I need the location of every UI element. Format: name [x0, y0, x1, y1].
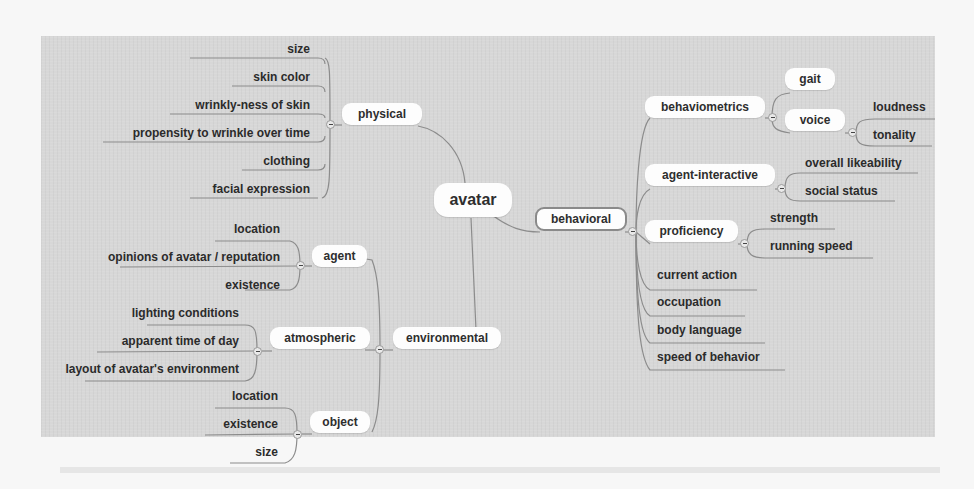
leaf-skin-color[interactable]: skin color: [253, 70, 310, 85]
leaf-opinions-of-avatar[interactable]: opinions of avatar / reputation: [108, 250, 280, 265]
collapse-toggle-proficiency[interactable]: [740, 239, 749, 248]
leaf-propensity-to-wrinkle[interactable]: propensity to wrinkle over time: [133, 126, 310, 141]
node-environmental[interactable]: environmental: [393, 327, 501, 349]
node-atmospheric[interactable]: atmospheric: [270, 327, 370, 349]
leaf-object-location[interactable]: location: [232, 389, 278, 404]
leaf-body-language[interactable]: body language: [657, 323, 742, 338]
leaf-apparent-time-of-day[interactable]: apparent time of day: [122, 334, 239, 349]
node-behaviometrics[interactable]: behaviometrics: [645, 96, 765, 118]
node-agent-interactive[interactable]: agent-interactive: [645, 164, 775, 186]
collapse-toggle-object[interactable]: [293, 430, 302, 439]
leaf-clothing[interactable]: clothing: [263, 154, 310, 169]
node-proficiency[interactable]: proficiency: [645, 220, 738, 242]
node-gait[interactable]: gait: [785, 68, 835, 90]
node-agent[interactable]: agent: [312, 245, 367, 267]
collapse-toggle-behavioral[interactable]: [628, 227, 637, 236]
leaf-running-speed[interactable]: running speed: [770, 239, 853, 254]
leaf-occupation[interactable]: occupation: [657, 295, 721, 310]
leaf-loudness[interactable]: loudness: [873, 100, 926, 115]
leaf-facial-expression[interactable]: facial expression: [213, 182, 310, 197]
node-object[interactable]: object: [310, 411, 370, 433]
node-behavioral[interactable]: behavioral: [535, 207, 627, 231]
collapse-toggle-behaviometrics[interactable]: [768, 113, 777, 122]
collapse-toggle-agent[interactable]: [296, 261, 305, 270]
leaf-object-size[interactable]: size: [255, 445, 278, 460]
leaf-speed-of-behavior[interactable]: speed of behavior: [657, 350, 760, 365]
collapse-toggle-atmospheric[interactable]: [253, 347, 262, 356]
collapse-toggle-agent-interactive[interactable]: [777, 184, 786, 193]
leaf-current-action[interactable]: current action: [657, 268, 737, 283]
root-node-avatar[interactable]: avatar: [434, 183, 512, 217]
leaf-layout-of-environment[interactable]: layout of avatar's environment: [65, 362, 239, 377]
node-voice[interactable]: voice: [785, 109, 845, 131]
leaf-lighting-conditions[interactable]: lighting conditions: [132, 306, 239, 321]
leaf-wrinkly-ness-of-skin[interactable]: wrinkly-ness of skin: [195, 98, 310, 113]
node-physical[interactable]: physical: [342, 103, 422, 125]
collapse-toggle-voice[interactable]: [848, 128, 857, 137]
leaf-agent-existence[interactable]: existence: [225, 278, 280, 293]
leaf-agent-location[interactable]: location: [234, 222, 280, 237]
leaf-overall-likeability[interactable]: overall likeability: [805, 156, 902, 171]
leaf-size[interactable]: size: [287, 42, 310, 57]
leaf-social-status[interactable]: social status: [805, 184, 878, 199]
leaf-tonality[interactable]: tonality: [873, 128, 916, 143]
leaf-strength[interactable]: strength: [770, 211, 818, 226]
collapse-toggle-physical[interactable]: [326, 120, 335, 129]
collapse-toggle-environmental[interactable]: [375, 345, 384, 354]
leaf-object-existence[interactable]: existence: [223, 417, 278, 432]
